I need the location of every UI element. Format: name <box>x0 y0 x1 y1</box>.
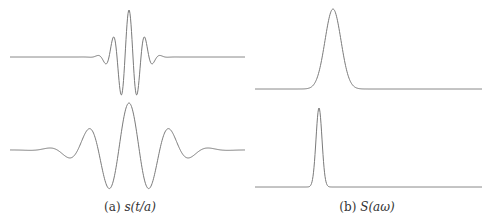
figure <box>0 0 491 222</box>
wavelet-large-scale-curve <box>10 103 245 189</box>
caption-a-prefix: (a) <box>104 200 124 214</box>
caption-b-prefix: (b) <box>339 200 360 214</box>
wavelet-small-scale-curve <box>10 10 245 95</box>
caption-a: (a) s(t/a) <box>104 200 156 214</box>
spectrum-large-scale-curve <box>255 108 482 187</box>
caption-b-math: S(aω) <box>360 200 395 214</box>
caption-a-math: s(t/a) <box>124 200 156 214</box>
caption-b: (b) S(aω) <box>339 200 394 214</box>
spectrum-small-scale-curve <box>255 9 482 89</box>
